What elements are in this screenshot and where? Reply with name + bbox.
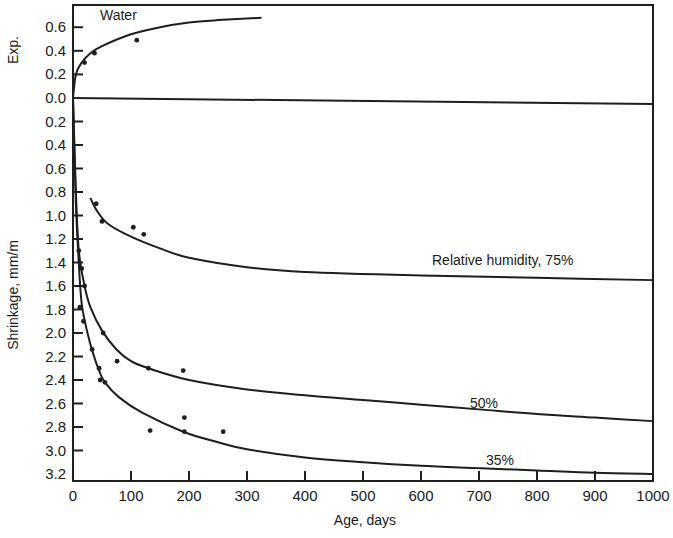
y-tick-label: 2.4 xyxy=(45,371,66,388)
series-label-water: Water xyxy=(100,7,137,23)
y-tick-label: 0.4 xyxy=(45,136,66,153)
data-point xyxy=(82,284,87,289)
data-point xyxy=(103,380,108,385)
y-tick-label: 0.0 xyxy=(45,89,66,106)
data-point xyxy=(141,232,146,237)
y-tick-label: 0.2 xyxy=(45,65,66,82)
shrinkage-chart: 01002003004005006007008009001000 0.60.40… xyxy=(0,0,673,538)
x-tick-label: 400 xyxy=(292,487,317,504)
x-tick-label: 700 xyxy=(466,487,491,504)
x-tick-label: 100 xyxy=(118,487,143,504)
series-data-points xyxy=(76,38,225,434)
data-point xyxy=(148,428,153,433)
y-axis-expansion-ticks: 0.60.40.20.0 xyxy=(45,18,83,106)
data-point xyxy=(81,319,86,324)
series-label-rh35: 35% xyxy=(486,452,514,468)
y-tick-label: 3.2 xyxy=(45,465,66,482)
y-tick-label: 3.0 xyxy=(45,442,66,459)
series-label-rh75: Relative humidity, 75% xyxy=(432,252,573,268)
data-point xyxy=(98,378,103,383)
data-point xyxy=(97,366,102,371)
y-tick-label: 1.8 xyxy=(45,301,66,318)
x-tick-label: 900 xyxy=(582,487,607,504)
data-point xyxy=(182,429,187,434)
y-tick-label: 0.4 xyxy=(45,42,66,59)
y-axis-expansion-title: Exp. xyxy=(5,36,21,64)
series-curves xyxy=(73,18,653,474)
y-axis-shrinkage-ticks: 0.20.40.60.81.01.21.41.61.82.02.22.42.62… xyxy=(45,113,83,483)
series-curve-3 xyxy=(73,98,653,474)
data-point xyxy=(221,429,226,434)
x-tick-label: 1000 xyxy=(636,487,669,504)
data-point xyxy=(101,331,106,336)
data-point xyxy=(90,347,95,352)
x-tick-label: 600 xyxy=(408,487,433,504)
data-point xyxy=(146,366,151,371)
x-tick-label: 0 xyxy=(69,487,77,504)
y-tick-label: 0.6 xyxy=(45,18,66,35)
x-tick-label: 500 xyxy=(350,487,375,504)
y-tick-label: 0.8 xyxy=(45,183,66,200)
data-point xyxy=(76,248,81,253)
data-point xyxy=(182,415,187,420)
data-point xyxy=(94,201,99,206)
y-tick-label: 2.0 xyxy=(45,324,66,341)
y-tick-label: 2.2 xyxy=(45,348,66,365)
data-point xyxy=(131,225,136,230)
x-tick-label: 200 xyxy=(176,487,201,504)
data-point xyxy=(115,359,120,364)
y-tick-label: 0.2 xyxy=(45,113,66,130)
y-axis-shrinkage-title: Shrinkage, mm/m xyxy=(5,240,21,350)
data-point xyxy=(79,266,84,271)
data-point xyxy=(78,305,83,310)
y-tick-label: 1.4 xyxy=(45,254,66,271)
x-tick-label: 300 xyxy=(234,487,259,504)
y-tick-label: 1.0 xyxy=(45,207,66,224)
x-axis-title: Age, days xyxy=(334,512,396,528)
plot-frame xyxy=(73,5,653,481)
zero-baseline xyxy=(73,98,653,104)
x-axis-ticks: 01002003004005006007008009001000 xyxy=(69,471,670,504)
y-tick-label: 1.6 xyxy=(45,277,66,294)
data-point xyxy=(134,38,139,43)
y-tick-label: 0.6 xyxy=(45,160,66,177)
series-curve-0 xyxy=(73,18,262,98)
data-point xyxy=(181,368,186,373)
data-point xyxy=(92,51,97,56)
y-tick-label: 2.8 xyxy=(45,418,66,435)
series-label-rh50: 50% xyxy=(470,395,498,411)
data-point xyxy=(100,219,105,224)
data-point xyxy=(82,60,87,65)
y-tick-label: 2.6 xyxy=(45,395,66,412)
y-tick-label: 1.2 xyxy=(45,230,66,247)
x-tick-label: 800 xyxy=(524,487,549,504)
